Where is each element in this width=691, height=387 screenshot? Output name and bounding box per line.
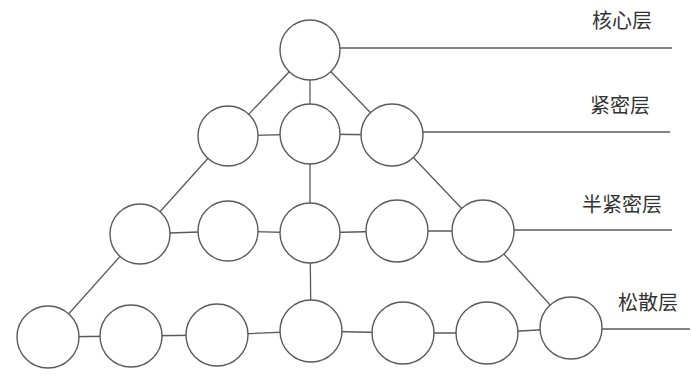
node-loose-l5 (372, 302, 434, 364)
layer-labels: 核心层 紧密层 半紧密层 松散层 (582, 9, 678, 315)
layer-label-semi-tight: 半紧密层 (582, 193, 662, 217)
node-semi-tight-s3 (280, 203, 340, 263)
node-semi-tight-s5 (452, 200, 514, 262)
node-semi-tight-s2 (198, 201, 258, 261)
pyramid-network-diagram: 核心层 紧密层 半紧密层 松散层 (0, 0, 691, 387)
node-core-c1 (280, 20, 340, 80)
network-edges (48, 50, 571, 337)
node-semi-tight-s1 (110, 204, 170, 264)
node-tight-t2 (280, 104, 340, 164)
layer-label-core: 核心层 (592, 9, 652, 33)
node-loose-l4 (280, 300, 342, 362)
node-loose-l2 (100, 305, 162, 367)
node-tight-t1 (198, 106, 258, 166)
node-loose-l3 (186, 304, 248, 366)
node-loose-l6 (456, 302, 518, 364)
layer-label-tight: 紧密层 (590, 94, 650, 118)
node-semi-tight-s4 (366, 200, 428, 262)
node-loose-l1 (17, 306, 79, 368)
layer-label-loose: 松散层 (618, 291, 678, 315)
layer-divider-lines (340, 48, 690, 329)
node-loose-l7 (540, 297, 602, 359)
node-tight-t3 (361, 104, 423, 166)
